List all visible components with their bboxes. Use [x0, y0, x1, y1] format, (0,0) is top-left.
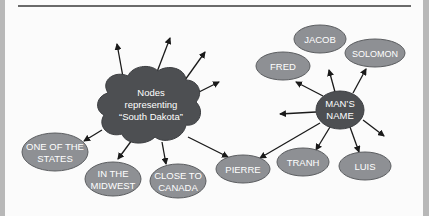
node-fred-label: FRED: [270, 61, 296, 72]
mans-name-node: MAN’S NAME: [316, 91, 364, 129]
node-solomon-label: SOLOMON: [352, 49, 398, 59]
arrow-right-down: [363, 120, 384, 136]
concept-network-diagram: Nodes representing “South Dakota” MAN’S …: [0, 0, 429, 216]
south-dakota-label-line-2: representing: [125, 99, 178, 110]
south-dakota-cloud-node: Nodes representing “South Dakota”: [98, 66, 201, 143]
node-jacob: JACOB: [294, 25, 346, 53]
node-jacob-label: JACOB: [304, 34, 336, 45]
arrow-up-right: [185, 52, 205, 80]
arrow-up-left: [117, 44, 123, 77]
node-close-to-canada-line-1: CLOSE TO: [154, 170, 202, 181]
node-close-to-canada-line-2: CANADA: [158, 182, 198, 193]
node-fred: FRED: [256, 52, 310, 80]
arrow-to-one-of-the-states: [84, 130, 102, 141]
arrow-to-tranh: [316, 127, 330, 150]
mans-name-label-line-2: NAME: [326, 110, 353, 121]
arrow-up: [157, 38, 170, 72]
node-luis: LUIS: [339, 152, 391, 180]
node-tranh: TRANH: [277, 148, 329, 176]
node-solomon: SOLOMON: [345, 39, 405, 67]
mans-name-label-line-1: MAN’S: [325, 98, 355, 109]
node-one-of-the-states-line-2: STATES: [37, 153, 73, 164]
arrow-to-close-to-canada: [162, 142, 166, 164]
node-in-the-midwest-line-1: IN THE: [98, 168, 129, 179]
node-one-of-the-states: ONE OF THE STATES: [22, 133, 88, 171]
node-in-the-midwest-line-2: MIDWEST: [91, 180, 136, 191]
node-pierre: PIERRE: [216, 155, 270, 183]
south-dakota-label-line-1: Nodes: [137, 87, 165, 98]
arrow-to-fred: [296, 82, 323, 96]
node-pierre-label: PIERRE: [225, 164, 260, 175]
node-in-the-midwest: IN THE MIDWEST: [85, 162, 141, 196]
node-tranh-label: TRANH: [287, 157, 320, 168]
node-close-to-canada: CLOSE TO CANADA: [150, 164, 206, 198]
arrow-to-pierre: [188, 137, 228, 157]
node-one-of-the-states-line-1: ONE OF THE: [26, 141, 84, 152]
arrow-to-in-the-midwest: [118, 140, 132, 159]
arrow-to-solomon: [353, 69, 366, 93]
node-luis-label: LUIS: [354, 161, 375, 172]
arrow-left: [280, 112, 316, 114]
arrow-to-luis: [350, 127, 359, 152]
south-dakota-label-line-3: “South Dakota”: [119, 111, 183, 122]
arrow-to-jacob: [329, 70, 335, 92]
